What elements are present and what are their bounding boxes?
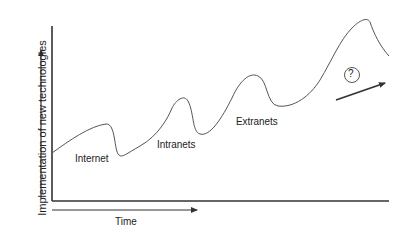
phase-label-intranets: Intranets [157, 138, 196, 150]
phase-label-internet: Internet [75, 152, 109, 164]
y-axis-label: Implementation of new technologies [36, 28, 48, 228]
phase-label-extranets: Extranets [236, 115, 278, 127]
technology-adoption-diagram [0, 0, 408, 236]
x-axis-label: Time [115, 215, 137, 227]
question-mark: ? [348, 68, 354, 79]
future-trend-arrow [336, 83, 385, 100]
adoption-curve [52, 20, 389, 156]
